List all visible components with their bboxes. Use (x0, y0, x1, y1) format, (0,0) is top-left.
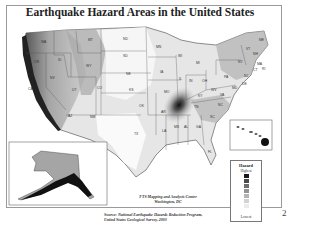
state-label: ND (123, 37, 128, 41)
state-label: WV (211, 88, 217, 92)
state-label: AR (161, 110, 166, 114)
credit-text: FTS Mapping and Analysis Center Washingt… (118, 194, 218, 204)
state-label: KY (198, 94, 203, 98)
state-label: CT (253, 68, 258, 72)
state-label: MT (88, 38, 93, 42)
state-label: GA (196, 125, 202, 129)
state-label: TX (134, 132, 139, 136)
state-label: RI (262, 67, 265, 71)
state-label: MD (232, 86, 238, 90)
state-label: NH (253, 52, 258, 56)
legend-swatch (244, 199, 249, 203)
state-label: NE (126, 72, 131, 76)
source-text: Source: National Earthquake Hazards Redu… (104, 212, 230, 222)
legend-title: Hazard (231, 163, 261, 168)
state-label: KS (129, 88, 134, 92)
state-label: UT (72, 88, 77, 92)
state-label: NV (50, 76, 55, 80)
state-label: IL (179, 77, 182, 81)
state-label: WA (41, 40, 47, 44)
page-number: 2 (282, 208, 287, 218)
state-label: FL (208, 150, 212, 154)
state-label: TN (194, 105, 199, 109)
state-label: AZ (68, 114, 72, 118)
state-label: WY (86, 64, 92, 68)
source-line-2: United States Geological Survey, 2003 (104, 217, 230, 222)
state-label: MA (257, 62, 263, 66)
state-label: IN (189, 79, 193, 83)
state-label: ME (259, 38, 265, 42)
legend-swatches (231, 174, 261, 208)
credit-line-2: Washington, DC (118, 199, 218, 204)
state-label: NC (218, 103, 223, 107)
legend-swatch (244, 194, 249, 198)
state-label: NJ (244, 74, 248, 78)
legend-swatch (244, 204, 249, 208)
state-label: MS (174, 125, 180, 129)
state-label: OK (139, 104, 145, 108)
state-label: MO (164, 90, 170, 94)
legend-swatch (244, 174, 249, 178)
legend-low-label: Lowest (231, 215, 261, 219)
state-label: SC (210, 115, 215, 119)
state-label: CA (28, 87, 33, 91)
state-label: ID (58, 58, 62, 62)
state-label: LA (162, 129, 167, 133)
hazard-legend: Hazard Highest Lowest (230, 160, 262, 222)
legend-swatch (244, 184, 249, 188)
state-label: PA (224, 75, 229, 79)
state-label: SD (123, 54, 128, 58)
legend-swatch (244, 189, 249, 193)
state-label: NM (90, 115, 95, 119)
legend-swatch (244, 179, 249, 183)
state-label: AL (184, 125, 188, 129)
state-label: VT (246, 47, 250, 51)
state-label: OR (34, 60, 40, 64)
state-label: NY (238, 60, 243, 64)
state-label: DE (242, 82, 247, 86)
state-label: MN (156, 45, 162, 49)
legend-high-label: Highest (231, 169, 261, 173)
state-label: MI (196, 61, 200, 65)
state-label: WI (178, 54, 182, 58)
state-label: OH (202, 79, 208, 83)
state-label: CO (97, 86, 102, 90)
state-label: VA (220, 93, 225, 97)
